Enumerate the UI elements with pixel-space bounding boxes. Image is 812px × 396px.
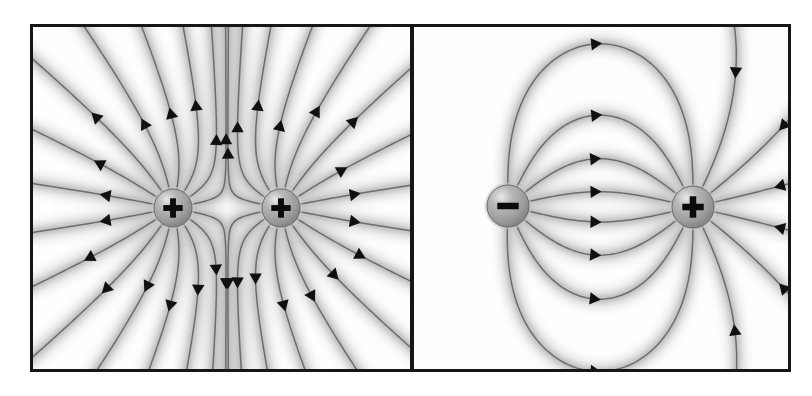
charge-symbol-vertical-bar xyxy=(278,198,284,217)
electric-field-figure xyxy=(0,0,812,396)
negative-charge xyxy=(485,183,532,230)
positive-charge xyxy=(670,184,717,231)
positive-charge-left xyxy=(152,187,195,230)
like-charges-panel xyxy=(30,24,413,372)
dipole-panel xyxy=(411,24,791,372)
charge-symbol-vertical-bar xyxy=(690,196,697,217)
charge-symbol-horizontal-bar xyxy=(497,203,518,210)
dipole-field-diagram xyxy=(414,27,788,369)
positive-charge-right xyxy=(260,187,303,230)
charge-symbol-vertical-bar xyxy=(170,198,176,217)
like-charges-field-diagram xyxy=(33,27,410,369)
